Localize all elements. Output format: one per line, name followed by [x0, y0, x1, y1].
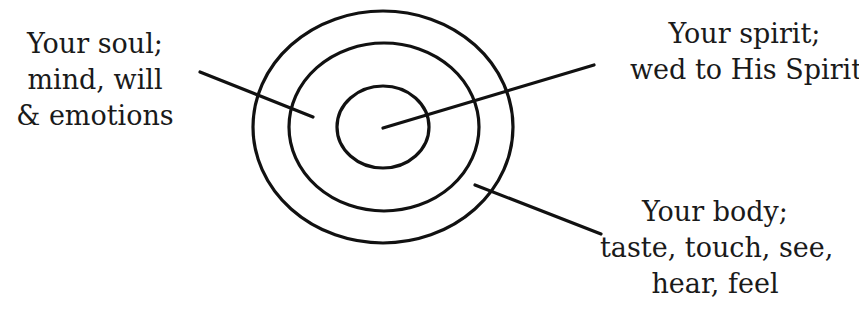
spirit-label-line-2: wed to His Spirit — [630, 52, 859, 88]
spirit-label: Your spirit; wed to His Spirit — [630, 16, 859, 88]
body-label-line-1: Your body; — [600, 194, 830, 230]
spirit-label-line-1: Your spirit; — [630, 16, 859, 52]
body-label-line-2: taste, touch, see, — [600, 230, 830, 266]
body-label: Your body; taste, touch, see, hear, feel — [600, 194, 830, 302]
soul-label: Your soul; mind, will & emotions — [0, 26, 190, 134]
soul-label-line-3: & emotions — [0, 98, 190, 134]
body-label-line-3: hear, feel — [600, 266, 830, 302]
body-pointer-line — [475, 185, 601, 234]
soul-label-line-1: Your soul; — [0, 26, 190, 62]
soul-label-line-2: mind, will — [0, 62, 190, 98]
